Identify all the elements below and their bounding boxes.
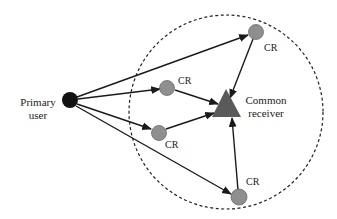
cr-node-bottom	[231, 189, 247, 205]
cr-node-mid-upper	[160, 81, 175, 96]
cr-node-top-right	[249, 25, 264, 40]
receiver-label-line2: receiver	[248, 107, 284, 119]
cr-label-bottom: CR	[246, 176, 260, 187]
primary-user-label-line1: Primary	[20, 96, 56, 108]
diagram-svg: Primary user CR CR CR CR Common receiver	[0, 0, 337, 219]
edge-cr-mid-lower-rx	[166, 113, 214, 129]
cr-label-mid-upper: CR	[178, 75, 192, 86]
cr-label-mid-lower: CR	[165, 139, 179, 150]
edge-pu-cr-mid-upper	[78, 89, 160, 99]
receiver-label-line1: Common	[246, 94, 287, 106]
edge-cr-mid-upper-rx	[175, 90, 218, 104]
edge-cr-top-right-rx	[230, 39, 253, 98]
cr-network-diagram: Primary user CR CR CR CR Common receiver	[0, 0, 337, 219]
edge-pu-cr-mid-lower	[77, 104, 151, 129]
cr-label-top-right: CR	[264, 42, 278, 53]
edge-cr-bottom-rx	[232, 118, 238, 190]
primary-user-node	[62, 92, 78, 108]
primary-user-label-line2: user	[29, 109, 48, 121]
edges-cr-to-receiver	[166, 39, 253, 190]
edge-pu-cr-bottom	[76, 106, 231, 194]
